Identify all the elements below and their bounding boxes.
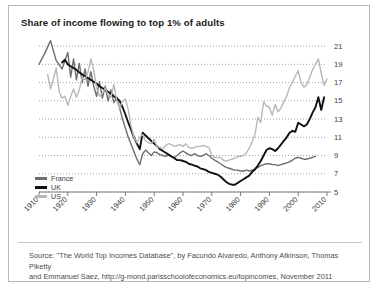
legend-item-france: France (35, 174, 73, 183)
series-line-us (48, 59, 327, 161)
x-axis-tick-label: 1950 (137, 195, 155, 213)
legend-label-us: US (51, 192, 61, 201)
source-note: Source: "The World Top Incomes Database"… (29, 251, 349, 283)
y-axis-tick-label: 17 (334, 78, 342, 87)
x-axis-tick-label: 1990 (252, 195, 270, 213)
chart-card: Share of income flowing to top 1% of adu… (8, 5, 370, 282)
y-axis-tick-label: 21 (334, 42, 342, 51)
x-axis-tick-label: 1960 (166, 195, 184, 213)
x-axis-tick-label: 1980 (224, 195, 242, 213)
legend-swatch-france (35, 177, 47, 180)
source-line-2: and Emmanuel Saez, http://g-mond.parissc… (29, 272, 349, 283)
y-axis-tick-label: 7 (334, 169, 338, 178)
divider (18, 242, 362, 243)
y-axis-tick-label: 19 (334, 60, 342, 69)
x-axis-tick-label: 2010 (310, 195, 328, 213)
y-axis-tick-label: 15 (334, 96, 342, 105)
y-axis-tick-label: 13 (334, 115, 342, 124)
chart-legend: France UK US (35, 174, 73, 201)
legend-label-france: France (51, 174, 73, 183)
legend-item-us: US (35, 192, 73, 201)
legend-swatch-us (35, 195, 47, 198)
y-axis-tick-label: 11 (334, 133, 342, 142)
y-axis-tick-label: 5 (334, 188, 338, 197)
x-axis-tick-label: 1940 (108, 195, 126, 213)
series-line-france (39, 41, 315, 171)
x-axis-tick-label: 1970 (195, 195, 213, 213)
page-title: Share of income flowing to top 1% of adu… (21, 17, 225, 28)
y-axis-tick-label: 9 (334, 151, 338, 160)
source-line-1: Source: "The World Top Incomes Database"… (29, 251, 349, 272)
legend-label-uk: UK (51, 183, 61, 192)
legend-swatch-uk (35, 186, 47, 189)
series-line-uk (62, 60, 324, 185)
x-axis-tick-label: 1930 (80, 195, 98, 213)
legend-item-uk: UK (35, 183, 73, 192)
x-axis-tick-label: 2000 (281, 195, 299, 213)
